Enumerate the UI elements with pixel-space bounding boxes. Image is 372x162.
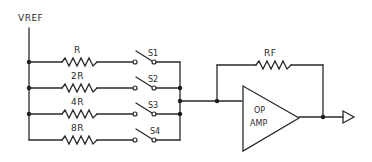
switch-label: S2	[148, 75, 158, 84]
feedback-path: RF	[217, 48, 323, 117]
junction-node	[178, 112, 182, 116]
output-node	[321, 115, 325, 119]
branch-2: 2R S2	[27, 71, 180, 92]
resistor-icon	[62, 110, 97, 118]
resistor-icon	[62, 84, 97, 92]
dac-circuit-diagram: VREF R S1 2R S2 4R S3	[0, 0, 372, 162]
switch-label: S3	[148, 101, 158, 110]
branch-4: 8R S4	[29, 123, 180, 144]
branch-3: 4R S3	[27, 97, 180, 118]
switch-terminal	[133, 60, 137, 64]
op-amp: OP AMP	[243, 86, 299, 151]
output-arrow-icon	[343, 111, 354, 123]
switch-label: S1	[148, 49, 158, 58]
switch-label: S4	[150, 127, 160, 136]
resistor-label: 4R	[71, 97, 84, 107]
op-amp-label-line1: OP	[254, 106, 265, 115]
feedback-resistor-label: RF	[264, 48, 276, 58]
switch-terminal	[133, 86, 137, 90]
resistor-label: 2R	[71, 71, 84, 81]
resistor-label: R	[74, 45, 81, 55]
op-amp-label-line2: AMP	[250, 119, 267, 128]
vref-label: VREF	[18, 13, 43, 23]
switch-terminal	[133, 112, 137, 116]
feedback-resistor-icon	[256, 61, 291, 69]
branch-1: R S1	[27, 45, 180, 66]
switch-terminal	[133, 138, 137, 142]
resistor-icon	[62, 136, 97, 144]
resistor-icon	[62, 58, 97, 66]
junction-node	[178, 86, 182, 90]
resistor-label: 8R	[71, 123, 84, 133]
